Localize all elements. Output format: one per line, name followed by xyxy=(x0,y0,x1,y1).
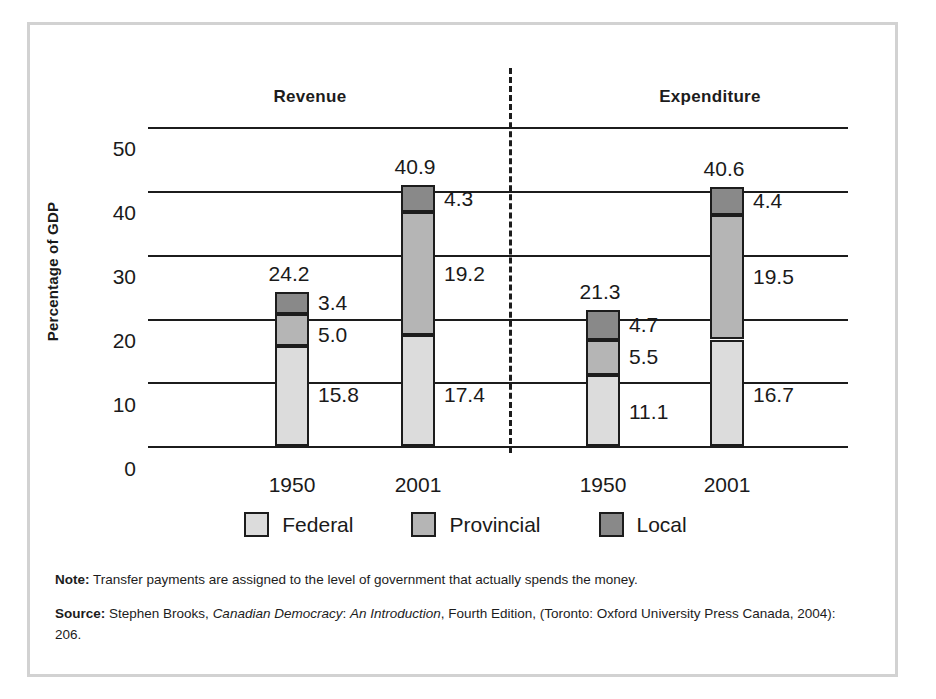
chart-plot-area: Percentage of GDP 50 40 30 20 10 0 Reven… xyxy=(30,25,901,495)
y-tick-0: 0 xyxy=(82,457,136,481)
x-tick-revenue-1950: 1950 xyxy=(247,473,337,497)
bar-segment-local[interactable] xyxy=(401,185,435,212)
y-tick-40: 40 xyxy=(82,201,136,225)
segment-label-expenditure-2001-local: 4.4 xyxy=(753,189,782,213)
note-body-text: Transfer payments are assigned to the le… xyxy=(93,572,638,587)
segment-label-revenue-2001-federal: 17.4 xyxy=(444,383,485,407)
bar-segment-provincial[interactable] xyxy=(586,340,620,375)
segment-label-expenditure-1950-provincial: 5.5 xyxy=(629,345,658,369)
panel-header-revenue: Revenue xyxy=(190,87,430,107)
bar-expenditure-2001[interactable] xyxy=(710,187,744,446)
y-tick-30: 30 xyxy=(82,265,136,289)
figure-frame: Percentage of GDP 50 40 30 20 10 0 Reven… xyxy=(27,22,898,677)
y-axis-title: Percentage of GDP xyxy=(44,142,61,402)
note-lead-label: Note: xyxy=(55,572,90,587)
bar-segment-provincial[interactable] xyxy=(275,314,309,346)
panel-divider xyxy=(509,68,512,453)
x-tick-revenue-2001: 2001 xyxy=(373,473,463,497)
bar-total-label-revenue-1950: 24.2 xyxy=(249,262,329,286)
segment-label-expenditure-2001-federal: 16.7 xyxy=(753,383,794,407)
caption-fragment-clip: 1950 and 2001. xyxy=(0,0,936,16)
segment-label-revenue-1950-local: 3.4 xyxy=(318,291,347,315)
chart-legend: Federal Provincial Local xyxy=(30,512,901,537)
legend-item-local[interactable]: Local xyxy=(599,512,687,537)
source-subtitle-text: An Introduction xyxy=(350,606,441,621)
legend-swatch-provincial-icon xyxy=(411,512,436,537)
source-author-text: Stephen Brooks, xyxy=(109,606,209,621)
bar-segment-provincial[interactable] xyxy=(710,215,744,339)
note-line: Note: Transfer payments are assigned to … xyxy=(55,570,865,591)
bar-segment-local[interactable] xyxy=(710,187,744,215)
bar-expenditure-1950[interactable] xyxy=(586,310,620,446)
bar-total-label-expenditure-2001: 40.6 xyxy=(684,157,764,181)
y-tick-10: 10 xyxy=(82,393,136,417)
legend-swatch-federal-icon xyxy=(244,512,269,537)
bar-segment-local[interactable] xyxy=(586,310,620,340)
bar-revenue-1950[interactable] xyxy=(275,292,309,446)
segment-label-revenue-1950-federal: 15.8 xyxy=(318,383,359,407)
segment-label-revenue-1950-provincial: 5.0 xyxy=(318,323,347,347)
y-tick-50: 50 xyxy=(82,137,136,161)
gridline-baseline-0 xyxy=(148,446,848,448)
legend-item-provincial[interactable]: Provincial xyxy=(411,512,540,537)
source-colon-text: : xyxy=(342,606,346,621)
bar-segment-local[interactable] xyxy=(275,292,309,314)
gridline-50 xyxy=(148,127,848,129)
legend-swatch-local-icon xyxy=(599,512,624,537)
legend-label-federal: Federal xyxy=(282,513,353,537)
source-title-text: Canadian Democracy xyxy=(213,606,343,621)
legend-label-local: Local xyxy=(637,513,687,537)
source-line: Source: Stephen Brooks, Canadian Democra… xyxy=(55,604,865,646)
bar-total-label-expenditure-1950: 21.3 xyxy=(560,280,640,304)
figure-caption-text: 1950 and 2001. xyxy=(196,0,333,4)
bar-revenue-2001[interactable] xyxy=(401,185,435,446)
segment-label-expenditure-2001-provincial: 19.5 xyxy=(753,265,794,289)
bar-segment-federal[interactable] xyxy=(710,340,744,447)
source-lead-label: Source: xyxy=(55,606,105,621)
bar-segment-federal[interactable] xyxy=(586,375,620,446)
segment-label-revenue-2001-local: 4.3 xyxy=(444,187,473,211)
segment-label-expenditure-1950-federal: 11.1 xyxy=(629,400,668,424)
bar-segment-federal[interactable] xyxy=(401,335,435,446)
y-tick-20: 20 xyxy=(82,329,136,353)
x-tick-expenditure-1950: 1950 xyxy=(558,473,648,497)
x-tick-expenditure-2001: 2001 xyxy=(682,473,772,497)
legend-label-provincial: Provincial xyxy=(449,513,540,537)
legend-item-federal[interactable]: Federal xyxy=(244,512,353,537)
segment-label-expenditure-1950-local: 4.7 xyxy=(629,313,658,337)
bar-total-label-revenue-2001: 40.9 xyxy=(375,155,455,179)
figure-footnotes: Note: Transfer payments are assigned to … xyxy=(55,570,865,646)
segment-label-revenue-2001-provincial: 19.2 xyxy=(444,262,485,286)
panel-header-expenditure: Expenditure xyxy=(590,87,830,107)
bar-segment-federal[interactable] xyxy=(275,346,309,446)
bar-segment-provincial[interactable] xyxy=(401,212,435,335)
